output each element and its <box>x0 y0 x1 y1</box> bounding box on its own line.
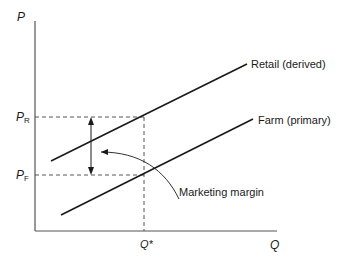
retail-price-label: PR <box>16 111 30 125</box>
farm-curve-label: Farm (primary) <box>258 115 331 126</box>
retail-curve <box>51 64 247 161</box>
quantity-marker-label: Q* <box>140 239 153 250</box>
marketing-margin-label: Marketing margin <box>179 187 264 198</box>
retail-curve-label: Retail (derived) <box>251 59 326 70</box>
farm-price-subscript: F <box>24 174 29 183</box>
y-axis-label: P <box>17 11 25 23</box>
farm-price-label: PF <box>16 169 29 183</box>
arrow-down-icon <box>88 167 94 175</box>
marketing-margin-diagram: P PR PF Q* Q Retail (derived) Farm (prim… <box>0 0 340 259</box>
farm-price-symbol: P <box>16 168 24 182</box>
retail-price-subscript: R <box>24 116 30 125</box>
arrow-up-icon <box>88 117 94 125</box>
diagram-graphics <box>0 0 340 259</box>
retail-price-symbol: P <box>16 110 24 124</box>
x-axis-label: Q <box>270 239 279 251</box>
